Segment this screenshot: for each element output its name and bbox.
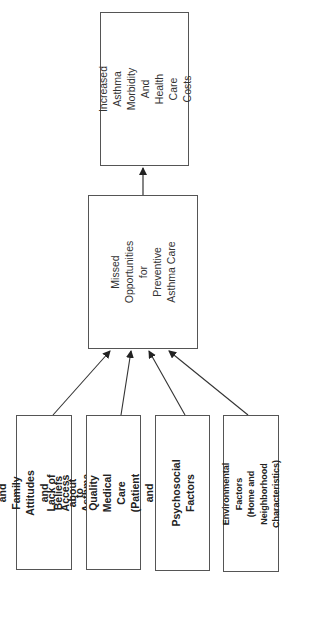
factor-box-environmental: Environmental Factors (Home and Neighbor… <box>223 415 279 572</box>
factor-box-access: Lack of Access to Quality Medical Care (… <box>86 415 141 570</box>
arrow-caregiver-to-central <box>53 351 110 415</box>
central-box: Missed Opportunities for Preventive Asth… <box>88 195 198 349</box>
central-label: Missed Opportunities for Preventive Asth… <box>108 241 178 303</box>
outcome-box: Increased Asthma Morbidity And Health Ca… <box>100 12 189 166</box>
arrow-access-to-central <box>121 351 131 415</box>
arrow-environmental-to-central <box>169 351 248 415</box>
factor-label-psychosocial: Psychosocial Factors <box>169 459 197 526</box>
factor-label-environmental: Environmental Factors (Home and Neighbor… <box>220 459 283 527</box>
factor-box-psychosocial: Psychosocial Factors <box>155 415 210 571</box>
arrow-psychosocial-to-central <box>149 351 185 415</box>
outcome-label: Increased Asthma Morbidity And Health Ca… <box>96 66 194 112</box>
